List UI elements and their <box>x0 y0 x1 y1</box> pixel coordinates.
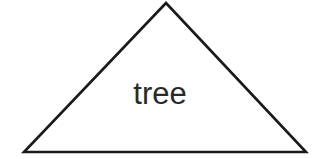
triangle-label: tree <box>0 78 320 109</box>
diagram-canvas: tree <box>0 0 320 159</box>
